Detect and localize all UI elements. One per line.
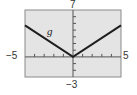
y-min-label: −3 [66, 80, 77, 90]
series-label-g: g [47, 26, 53, 37]
x-max-label: 5 [123, 51, 129, 61]
x-min-label: −5 [6, 51, 17, 61]
y-max-label: 7 [70, 0, 76, 10]
